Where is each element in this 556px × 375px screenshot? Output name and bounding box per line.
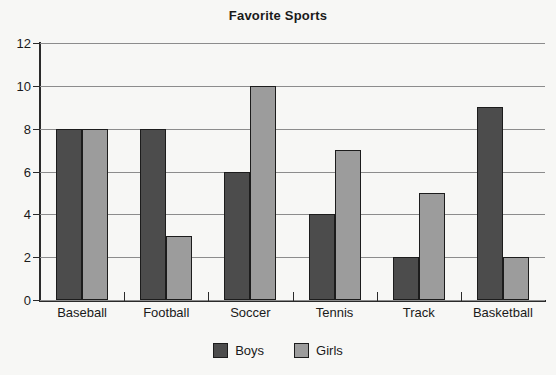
legend-swatch-girls	[294, 343, 309, 358]
gridline-y-2	[40, 257, 545, 258]
x-axis-label-basketball: Basketball	[473, 305, 533, 320]
chart-legend: BoysGirls	[0, 343, 556, 358]
gridline-y-10	[40, 86, 545, 87]
bar-basketball-girls	[503, 257, 529, 300]
x-tick-mark-5	[461, 292, 462, 301]
legend-entry-boys: Boys	[213, 343, 264, 358]
y-tick-label-8: 8	[5, 121, 31, 136]
y-tick-mark-10	[33, 86, 39, 87]
bar-baseball-girls	[82, 129, 108, 300]
legend-swatch-boys	[213, 343, 228, 358]
y-tick-label-2: 2	[5, 250, 31, 265]
bar-football-boys	[140, 129, 166, 300]
x-axis-label-football: Football	[143, 305, 189, 320]
gridline-y-12	[40, 43, 545, 44]
y-tick-mark-12	[33, 43, 39, 44]
x-axis-label-track: Track	[403, 305, 435, 320]
bar-tennis-boys	[309, 214, 335, 300]
gridline-y-8	[40, 129, 545, 130]
y-tick-mark-8	[33, 129, 39, 130]
favorite-sports-bar-chart: Favorite Sports 024681012 BoysGirls Base…	[0, 0, 556, 375]
bar-basketball-boys	[477, 107, 503, 300]
x-tick-mark-3	[293, 292, 294, 301]
y-tick-label-6: 6	[5, 164, 31, 179]
y-tick-label-12: 12	[5, 36, 31, 51]
x-axis-label-soccer: Soccer	[230, 305, 270, 320]
x-axis-label-tennis: Tennis	[316, 305, 354, 320]
y-tick-mark-6	[33, 172, 39, 173]
bar-football-girls	[166, 236, 192, 300]
y-tick-mark-0	[33, 300, 39, 301]
legend-entry-girls: Girls	[294, 343, 343, 358]
bar-tennis-girls	[335, 150, 361, 300]
legend-label-boys: Boys	[235, 343, 264, 358]
x-tick-mark-4	[377, 292, 378, 301]
legend-label-girls: Girls	[316, 343, 343, 358]
bar-soccer-boys	[224, 172, 250, 301]
y-tick-mark-4	[33, 214, 39, 215]
y-tick-label-4: 4	[5, 207, 31, 222]
plot-area	[40, 43, 545, 300]
gridline-y-4	[40, 214, 545, 215]
y-tick-label-10: 10	[5, 78, 31, 93]
bar-track-boys	[393, 257, 419, 300]
x-tick-mark-2	[208, 292, 209, 301]
bar-soccer-girls	[250, 86, 276, 300]
bar-track-girls	[419, 193, 445, 300]
y-tick-mark-2	[33, 257, 39, 258]
gridline-y-6	[40, 172, 545, 173]
x-axis-label-baseball: Baseball	[57, 305, 107, 320]
y-axis-tick-labels: 024681012	[0, 0, 31, 375]
bar-baseball-boys	[56, 129, 82, 300]
x-tick-mark-1	[124, 292, 125, 301]
y-tick-label-0: 0	[5, 293, 31, 308]
chart-title: Favorite Sports	[0, 8, 556, 23]
